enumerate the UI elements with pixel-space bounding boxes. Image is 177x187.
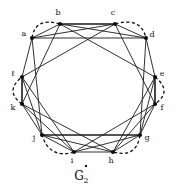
graph-vertex [20,75,24,79]
dot-accent-icon [85,165,87,167]
graph-figure: abcdefghijkℓ G 2 [0,0,177,187]
vertex-label-k: k [11,103,16,112]
vertex-label-a: a [22,29,27,38]
vertex-label-h: h [108,156,113,165]
graph-vertex [144,36,148,40]
vertex-label-l: ℓ [11,69,15,78]
graph-vertex [40,133,44,137]
graph-vertex [153,75,157,79]
graph-vertex [30,36,34,40]
vertex-label-i: i [71,156,74,165]
graph-vertex [20,102,24,106]
vertex-label-j: j [32,133,35,142]
caption-subscript: 2 [83,176,88,185]
graph-vertex [138,133,142,137]
graph-vertex [113,22,117,26]
graph-edge [74,135,140,152]
graph-edge [22,38,32,77]
vertex-label-d: d [149,30,154,39]
vertex-label-f: f [161,103,165,112]
graph-canvas: abcdefghijkℓ G 2 [0,0,177,187]
graph-edges [22,24,155,152]
graph-edge [113,104,155,152]
graph-edge [146,38,155,77]
graph-dashed-arc [155,77,164,104]
vertex-label-c: c [111,8,116,17]
graph-vertex [58,22,62,26]
graph-vertex [72,150,76,154]
graph-edge [113,135,140,152]
vertex-label-b: b [55,8,60,17]
figure-caption: G 2 [74,165,88,185]
caption-letter: G [74,169,84,183]
vertex-label-g: g [144,133,149,142]
graph-edge [22,104,74,152]
graph-dashed-arc [13,77,22,104]
graph-edge [22,24,60,104]
graph-edge [74,104,155,152]
graph-vertex [153,102,157,106]
vertex-label-e: e [160,69,165,78]
graph-vertex [111,150,115,154]
graph-edge [22,104,113,152]
